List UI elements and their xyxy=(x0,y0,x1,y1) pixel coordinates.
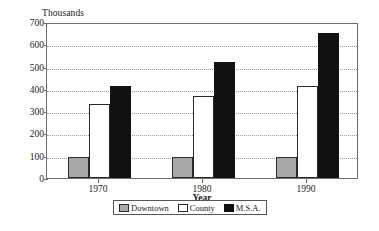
bar-county-1990 xyxy=(297,86,318,178)
legend-label: M.S.A. xyxy=(236,203,261,213)
plot-area xyxy=(47,24,357,178)
chart-legend: DowntownCountyM.S.A. xyxy=(113,200,267,215)
legend-label: County xyxy=(190,203,215,213)
bar-county-1970 xyxy=(89,104,110,178)
bar-county-1980 xyxy=(193,96,214,178)
bar-chart: Thousands 0100200300400500600700 1970198… xyxy=(0,0,379,231)
bar-downtown-1970 xyxy=(68,157,89,178)
plot-frame xyxy=(46,23,358,179)
x-tick-mark xyxy=(306,179,307,183)
y-axis-tick-marks xyxy=(0,23,50,179)
gridline xyxy=(47,69,357,70)
legend-label: Downtown xyxy=(131,203,169,213)
y-axis-title: Thousands xyxy=(42,8,84,19)
x-tick-mark xyxy=(202,179,203,183)
x-tick-mark xyxy=(98,179,99,183)
bar-downtown-1980 xyxy=(172,157,193,178)
legend-entry-county: County xyxy=(178,203,215,213)
msa-swatch xyxy=(224,204,234,212)
downtown-swatch xyxy=(119,204,129,212)
bar-m-s-a-1970 xyxy=(110,86,131,178)
gridline xyxy=(47,46,357,47)
legend-entry-downtown: Downtown xyxy=(119,203,169,213)
legend-entry-m-s-a: M.S.A. xyxy=(224,203,261,213)
county-swatch xyxy=(178,204,188,212)
bar-m-s-a-1980 xyxy=(214,62,235,178)
bar-m-s-a-1990 xyxy=(318,33,339,178)
bar-downtown-1990 xyxy=(276,157,297,178)
